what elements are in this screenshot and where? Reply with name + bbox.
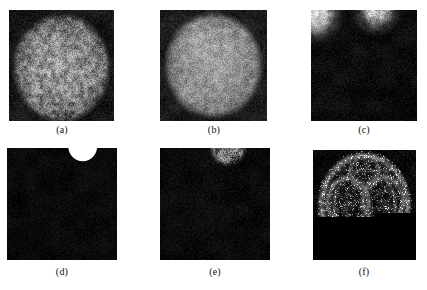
panel-canvas-e <box>160 148 270 260</box>
panel-caption-b: (b) <box>184 124 244 136</box>
panel-image-e <box>160 148 270 260</box>
panel-image-a <box>9 10 114 121</box>
panel-image-f <box>313 150 416 260</box>
panel-caption-f: (f) <box>334 266 394 278</box>
panel-canvas-c <box>311 10 417 121</box>
panel-canvas-b <box>160 10 267 121</box>
panel-caption-e: (e) <box>185 266 245 278</box>
figure-root: (a) (b) (c) (d) (e) (f) <box>0 0 427 290</box>
panel-caption-a: (a) <box>32 124 92 136</box>
panel-canvas-d <box>7 148 117 260</box>
panel-image-d <box>7 148 117 260</box>
panel-caption-c: (c) <box>334 124 394 136</box>
panel-image-c <box>311 10 417 121</box>
panel-image-b <box>160 10 267 121</box>
panel-caption-d: (d) <box>32 266 92 278</box>
panel-canvas-a <box>9 10 114 121</box>
panel-canvas-f <box>313 150 416 260</box>
